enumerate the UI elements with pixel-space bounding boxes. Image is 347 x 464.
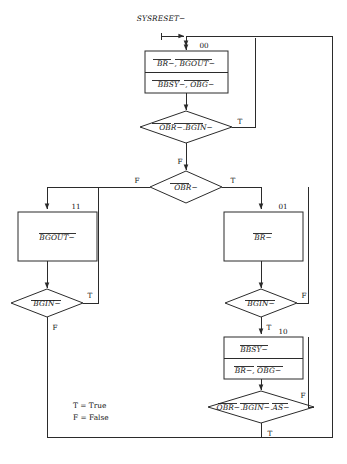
flowchart-svg: SYSRESET− 00 11 01 10 BR−, BGOUT− BBSY−,… (0, 0, 347, 464)
legend-false: F = False (73, 413, 109, 422)
box-00-line2-text: BBSY−, OBG− (157, 80, 215, 89)
flowchart-canvas: SYSRESET− 00 11 01 10 BR−, BGOUT− BBSY−,… (0, 0, 347, 464)
edge-label-d1-false: F (178, 157, 183, 166)
edge-label-d3-true: T (88, 291, 93, 300)
edge-d5-true (258, 423, 265, 437)
edge-label-d1-true: T (238, 117, 243, 126)
edge-label-d5-false: F (301, 391, 306, 400)
decision-1-text: OBR−.BGIN− (159, 123, 213, 132)
box-01-text: BR− (253, 233, 272, 242)
state-label-00: 00 (199, 41, 209, 50)
state-label-10: 10 (278, 327, 288, 336)
state-label-01: 01 (278, 202, 287, 211)
legend-true: T = True (73, 401, 106, 410)
box-00-line1-text: BR−, BGOUT− (156, 59, 215, 68)
decision-3-text: BGIN− (32, 299, 61, 308)
edge-label-d3-false: F (53, 323, 58, 332)
edge-d1-true (232, 38, 255, 127)
edge-label-d4-true: T (267, 323, 272, 332)
edge-label-d4-false: F (302, 291, 307, 300)
edge-d2-true (222, 187, 261, 209)
decision-5-text: OBR−.BGIN−.AS− (217, 403, 290, 412)
edge-sysreset-entry (161, 33, 184, 40)
edge-label-d2-false: F (135, 176, 140, 185)
edge-d5-false (308, 337, 314, 407)
label-sysreset: SYSRESET− (137, 14, 185, 23)
box-11-text: BGOUT− (38, 233, 74, 242)
state-label-11: 11 (71, 202, 80, 211)
edge-label-d5-true: T (268, 429, 273, 438)
decision-2-text: OBR− (174, 183, 198, 192)
box-10-line1-text: BBSY− (239, 345, 268, 354)
box-10-line2-text: BR−, OBG− (234, 366, 282, 375)
edge-label-d2-true: T (231, 176, 236, 185)
decision-4-text: BGIN− (246, 299, 275, 308)
